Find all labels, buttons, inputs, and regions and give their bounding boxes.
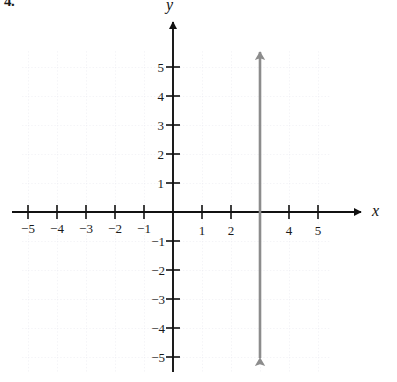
grid-lines [22,50,330,372]
x-tick-label-neg4: −4 [47,222,67,235]
y-tick-label-5: 5 [148,61,164,74]
x-tick-label-neg2: −2 [105,222,125,235]
x-tick-label-neg5: −5 [18,222,38,235]
x-tick-label-1: 1 [194,224,210,237]
coordinate-plane-figure: 4. [0,0,397,382]
y-tick-label-4: 4 [148,90,164,103]
y-tick-label-3: 3 [148,119,164,132]
problem-number-marker: 4. [4,0,14,9]
x-tick-label-neg3: −3 [76,222,96,235]
y-tick-label-neg1: −1 [143,235,165,248]
x-tick-label-4: 4 [281,224,297,237]
coordinate-plane-svg [0,0,397,382]
y-tick-label-1: 1 [148,177,164,190]
y-tick-label-neg4: −4 [143,322,165,335]
y-tick-label-neg2: −2 [143,264,165,277]
y-tick-label-neg5: −5 [143,351,165,364]
y-tick-label-neg3: −3 [143,293,165,306]
x-axis-label: x [372,203,379,219]
y-axis-label: y [166,0,173,13]
x-tick-label-5: 5 [310,224,326,237]
y-tick-label-2: 2 [148,148,164,161]
x-tick-label-2: 2 [223,224,239,237]
